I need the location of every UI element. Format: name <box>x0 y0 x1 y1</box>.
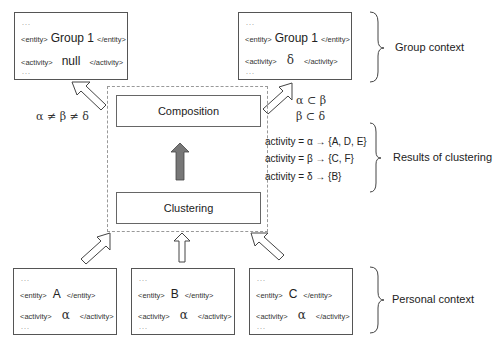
entity-close-tag: </entity> <box>303 291 332 300</box>
activity-value: δ <box>287 53 294 67</box>
group-context-label: Group context <box>395 41 464 53</box>
ellipsis-top: ... <box>22 19 31 26</box>
ellipsis-top: ... <box>139 275 148 282</box>
clustering-result-beta: activity = β → {C, F} <box>265 153 354 164</box>
hollow-arrow-from-b <box>174 233 190 262</box>
entity-line: <entity>C</entity> <box>256 287 332 301</box>
brace-group-context-icon <box>370 12 384 82</box>
personal-context-c-box: ... <entity>C</entity> <activity>α</acti… <box>249 268 353 335</box>
entity-line: <entity>A</entity> <box>20 287 95 301</box>
activity-close-tag: </activity> <box>304 57 338 66</box>
composition-stage: Composition <box>116 95 261 127</box>
activity-line: <activity>null</activity> <box>21 54 123 68</box>
entity-value: A <box>53 287 61 301</box>
activity-value: α <box>298 308 306 322</box>
entity-line: <entity>B</entity> <box>138 287 213 301</box>
entity-value: C <box>289 287 298 301</box>
brace-personal-context-icon <box>370 267 384 333</box>
activity-close-tag: </activity> <box>316 312 350 321</box>
clustering-result-alpha: activity = α → {A, D, E} <box>265 136 367 147</box>
activity-value: α <box>62 308 70 322</box>
activity-close-tag: </activity> <box>89 58 123 67</box>
entity-value: Group 1 <box>51 31 94 45</box>
entity-line: <entity>Group 1</entity> <box>245 31 350 45</box>
ellipsis-bottom: ... <box>246 68 255 75</box>
activity-line: <activity>α</activity> <box>138 308 232 322</box>
activity-value: α <box>180 308 188 322</box>
hollow-arrow-to-group-null <box>72 82 106 110</box>
clustering-label: Clustering <box>164 202 214 214</box>
entity-close-tag: </entity> <box>321 35 350 44</box>
personal-context-a-box: ... <entity>A</entity> <activity>α</acti… <box>13 268 117 335</box>
hollow-arrow-from-c <box>251 233 284 260</box>
entity-open-tag: <entity> <box>20 291 47 300</box>
not-equal-relation: α ≠ β ≠ δ <box>36 110 89 123</box>
ellipsis-bottom: ... <box>22 68 31 75</box>
hollow-arrow-from-a <box>81 233 110 264</box>
ellipsis-top: ... <box>257 275 266 282</box>
ellipsis-bottom: ... <box>139 323 148 330</box>
activity-line: <activity>α</activity> <box>20 308 114 322</box>
activity-open-tag: <activity> <box>256 312 288 321</box>
clustering-result-delta: activity = δ → {B} <box>265 171 341 182</box>
group-context-delta-box: ... <entity>Group 1</entity> <activity>δ… <box>238 12 352 80</box>
activity-open-tag: <activity> <box>245 57 277 66</box>
entity-open-tag: <entity> <box>21 35 48 44</box>
activity-close-tag: </activity> <box>198 312 232 321</box>
group-context-null-box: ... <entity>Group 1</entity> <activity>n… <box>14 12 128 80</box>
subset-relation-2: β ⊂ δ <box>296 110 325 123</box>
entity-open-tag: <entity> <box>138 291 165 300</box>
entity-open-tag: <entity> <box>256 291 283 300</box>
activity-line: <activity>δ</activity> <box>245 53 338 67</box>
brace-results-icon <box>370 123 381 192</box>
entity-open-tag: <entity> <box>245 35 272 44</box>
activity-value: null <box>62 54 81 68</box>
composition-label: Composition <box>158 105 219 117</box>
entity-close-tag: </entity> <box>67 291 96 300</box>
ellipsis-top: ... <box>246 19 255 26</box>
personal-context-b-box: ... <entity>B</entity> <activity>α</acti… <box>131 268 235 335</box>
entity-line: <entity>Group 1</entity> <box>21 31 126 45</box>
activity-open-tag: <activity> <box>138 312 170 321</box>
entity-close-tag: </entity> <box>185 291 214 300</box>
activity-close-tag: </activity> <box>80 312 114 321</box>
entity-value: B <box>171 287 179 301</box>
ellipsis-top: ... <box>21 275 30 282</box>
personal-context-label: Personal context <box>392 293 474 305</box>
clustering-stage: Clustering <box>116 192 261 224</box>
entity-close-tag: </entity> <box>97 35 126 44</box>
results-of-clustering-label: Results of clustering <box>393 151 492 163</box>
activity-line: <activity>α</activity> <box>256 308 350 322</box>
entity-value: Group 1 <box>275 31 318 45</box>
ellipsis-bottom: ... <box>21 323 30 330</box>
activity-open-tag: <activity> <box>21 58 53 67</box>
subset-relation-1: α ⊂ β <box>296 94 326 107</box>
activity-open-tag: <activity> <box>20 312 52 321</box>
ellipsis-bottom: ... <box>257 323 266 330</box>
